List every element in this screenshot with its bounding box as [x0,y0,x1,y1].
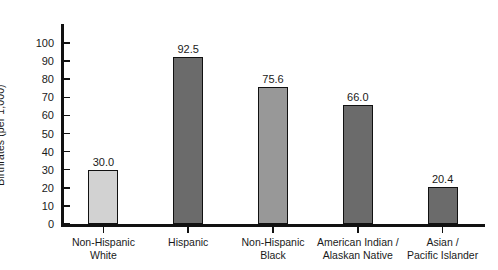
bar: 30.0 [88,170,118,224]
x-axis-tick-mark [187,227,189,233]
bar: 66.0 [343,105,373,224]
y-axis-tick-label: 90 [42,56,54,67]
y-axis-line [61,24,64,227]
y-axis-tick-label: 70 [42,92,54,103]
bar-value-label: 75.6 [262,74,283,85]
x-axis-tick-mark [103,227,105,233]
bar: 75.6 [258,87,288,224]
x-axis-tick-mark [357,227,359,233]
bar-chart: Birthrates (per 1,000) 01020304050607080… [0,0,498,270]
y-axis-tick-label: 30 [42,164,54,175]
y-axis-tick-mark [64,151,70,153]
y-axis-tick-mark [64,78,70,80]
bar-value-label: 20.4 [432,174,453,185]
y-axis-tick-label: 20 [42,182,54,193]
y-axis-tick-label: 60 [42,110,54,121]
y-axis-tick-mark [64,205,70,207]
y-axis-tick-label: 10 [42,200,54,211]
x-axis-tick-mark [442,227,444,233]
y-axis-tick-mark [64,60,70,62]
y-axis-tick-mark [64,115,70,117]
y-axis-tick-label: 0 [48,219,54,230]
y-axis-tick-mark [64,169,70,171]
y-axis-tick-label: 50 [42,128,54,139]
bar-value-label: 92.5 [177,44,198,55]
x-axis-tick-mark [272,227,274,233]
bar: 92.5 [173,57,203,224]
y-axis-tick-mark [64,187,70,189]
y-axis-tick-mark [64,223,70,225]
y-axis-title: Birthrates (per 1,000) [0,0,24,270]
bar: 20.4 [428,187,458,224]
y-axis-tick-mark [64,133,70,135]
y-axis-tick-label: 100 [36,38,54,49]
bar-value-label: 66.0 [347,92,368,103]
bar-value-label: 30.0 [93,157,114,168]
y-axis-tick-mark [64,42,70,44]
y-axis-tick-label: 80 [42,74,54,85]
plot-area: 0102030405060708090100 30.092.575.666.02… [61,24,485,227]
x-axis-category-label: Asian /Pacific Islander [383,236,498,261]
y-axis-tick-mark [64,97,70,99]
y-axis-tick-label: 40 [42,146,54,157]
